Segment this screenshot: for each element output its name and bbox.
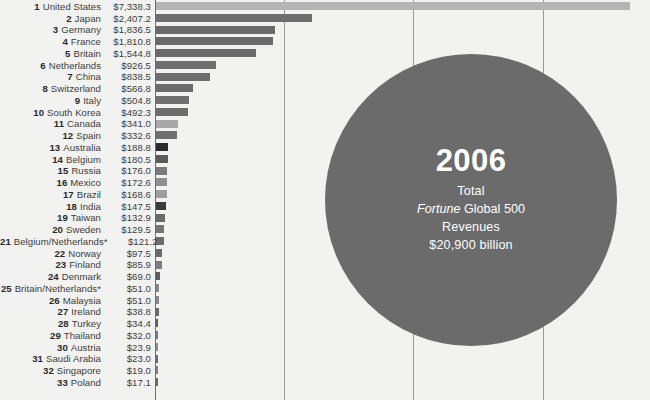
row-country-name: Switzerland [51, 83, 101, 94]
row-label: 31Saudi Arabia$23.0 [0, 353, 151, 365]
bar-netherlands [156, 61, 216, 69]
bar-denmark [156, 272, 160, 280]
row-value: $1,810.8 [105, 36, 151, 48]
row-value: $172.6 [105, 177, 151, 189]
bar-japan [156, 14, 312, 22]
row-country-name: China [76, 71, 101, 82]
row-rank: 25 [1, 283, 12, 294]
row-country-name: Thailand [64, 330, 101, 341]
row-country-name: Brazil [77, 189, 101, 200]
row-country-name: Netherlands [49, 60, 101, 71]
row-label: 12Spain$332.6 [0, 130, 151, 142]
row-country-name: Australia [63, 142, 101, 153]
row-value: $97.5 [105, 248, 151, 260]
row-rank: 30 [57, 342, 68, 353]
row-rank: 15 [58, 165, 69, 176]
row-value: $341.0 [105, 118, 151, 130]
gridline-2000 [284, 0, 285, 400]
bar-thailand [156, 331, 158, 339]
row-country-name: Russia [71, 165, 101, 176]
row-label: 3Germany$1,836.5 [0, 24, 151, 36]
row-rank: 5 [65, 48, 70, 59]
category-label-column: 1United States$7,338.32Japan$2,407.23Ger… [0, 0, 155, 400]
bar-poland [156, 378, 158, 386]
row-rank: 18 [66, 201, 77, 212]
row-rank: 2 [66, 13, 71, 24]
row-label: 28Turkey$34.4 [0, 318, 151, 330]
row-value: $23.0 [105, 353, 151, 365]
bar-sweden [156, 225, 164, 233]
row-rank: 33 [57, 377, 68, 388]
row-value: $51.0 [105, 283, 151, 295]
row-value: $504.8 [105, 95, 151, 107]
bar-austria [156, 343, 158, 351]
row-country-name: Spain [76, 130, 101, 141]
row-value: $168.6 [105, 189, 151, 201]
row-label: 26Malaysia$51.0 [0, 295, 151, 307]
row-label: 11Canada$341.0 [0, 118, 151, 130]
bar-singapore [156, 366, 158, 374]
row-country-name: Poland [71, 377, 101, 388]
bar-saudi-arabia [156, 355, 158, 363]
bar-mexico [156, 178, 167, 186]
row-value: $176.0 [105, 165, 151, 177]
row-label: 10South Korea$492.3 [0, 107, 151, 119]
row-country-name: Denmark [62, 271, 101, 282]
row-rank: 12 [62, 130, 73, 141]
bar-ireland [156, 308, 159, 316]
bar-belgium [156, 155, 168, 163]
bar-switzerland [156, 84, 193, 92]
row-label: 14Belgium$180.5 [0, 154, 151, 166]
row-country-name: Britain [73, 48, 101, 59]
row-label: 5Britain$1,544.8 [0, 48, 151, 60]
row-label: 16Mexico$172.6 [0, 177, 151, 189]
callout-source-rest: Global 500 [460, 202, 524, 216]
row-label: 30Austria$23.9 [0, 342, 151, 354]
row-label: 15Russia$176.0 [0, 165, 151, 177]
row-value: $23.9 [105, 342, 151, 354]
bar-australia [156, 143, 168, 151]
row-country-name: Sweden [66, 224, 101, 235]
bar-india [156, 202, 166, 210]
row-country-name: France [71, 36, 101, 47]
row-value: $1,836.5 [105, 24, 151, 36]
row-country-name: Malaysia [63, 295, 101, 306]
bar-taiwan [156, 214, 165, 222]
row-rank: 31 [32, 353, 43, 364]
bar-finland [156, 261, 162, 269]
row-rank: 23 [55, 259, 66, 270]
row-country-name: United States [43, 1, 101, 12]
row-country-name: Austria [71, 342, 101, 353]
row-value: $180.5 [105, 154, 151, 166]
row-country-name: India [80, 201, 101, 212]
row-country-name: Taiwan [71, 212, 101, 223]
row-value: $566.8 [105, 83, 151, 95]
bar-spain [156, 131, 177, 139]
row-value: $17.1 [105, 377, 151, 389]
bar-south-korea [156, 108, 188, 116]
row-label: 19Taiwan$132.9 [0, 212, 151, 224]
row-value: $121.2 [112, 236, 158, 248]
callout-line-amount: $20,900 billion [429, 237, 512, 255]
row-country-name: Germany [61, 24, 101, 35]
row-value: $1,544.8 [105, 48, 151, 60]
bar-norway [156, 249, 162, 257]
callout-year: 2006 [436, 145, 507, 178]
row-rank: 20 [52, 224, 63, 235]
row-label: 4France$1,810.8 [0, 36, 151, 48]
row-rank: 26 [49, 295, 60, 306]
bar-malaysia [156, 296, 159, 304]
row-country-name: Ireland [71, 306, 101, 317]
row-label: 29Thailand$32.0 [0, 330, 151, 342]
row-rank: 24 [48, 271, 59, 282]
bar-france [156, 37, 273, 45]
row-value: $129.5 [105, 224, 151, 236]
row-value: $2,407.2 [105, 13, 151, 25]
row-country-name: Belgium [66, 154, 101, 165]
row-value: $492.3 [105, 107, 151, 119]
row-rank: 28 [58, 318, 69, 329]
row-label: 27Ireland$38.8 [0, 306, 151, 318]
row-label: 18India$147.5 [0, 201, 151, 213]
bar-united-states [156, 2, 630, 10]
bar-germany [156, 26, 275, 34]
